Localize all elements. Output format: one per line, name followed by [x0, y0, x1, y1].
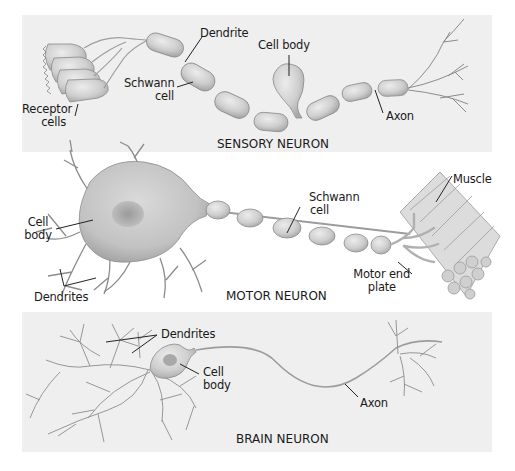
label-receptor-line2: cells	[12, 116, 66, 129]
sensory-axon-branches	[408, 19, 468, 112]
receptor-cells	[43, 44, 108, 102]
title-sensory-neuron: SENSORY NEURON	[217, 137, 329, 151]
label-muscle: Muscle	[453, 173, 492, 186]
title-motor-neuron: MOTOR NEURON	[226, 289, 327, 303]
label-dendrite: Dendrite	[200, 27, 248, 40]
label-brain-axon: Axon	[360, 397, 388, 410]
motor-neuron	[36, 140, 500, 299]
label-sensory-axon: Axon	[386, 110, 414, 123]
brain-neuron	[26, 320, 442, 442]
motor-nucleus	[112, 201, 144, 227]
label-motor-cell-line2: body	[22, 229, 54, 242]
label-brain-dendrites: Dendrites	[161, 328, 215, 341]
muscle-fibers	[400, 172, 500, 299]
label-brain-cell-line2: body	[203, 379, 231, 392]
brain-axon-terminals	[388, 320, 436, 396]
label-sensory-schwann-line2: cell	[124, 90, 174, 103]
brain-axon	[196, 341, 442, 387]
neuron-illustrations	[0, 0, 515, 471]
label-motor-dendrites: Dendrites	[34, 291, 88, 304]
motor-cell-body	[79, 161, 210, 262]
label-motor-schwann-line2: cell	[310, 204, 329, 217]
title-brain-neuron: BRAIN NEURON	[236, 432, 329, 446]
label-sensory-cell-body: Cell body	[258, 39, 310, 52]
label-motor-end-line2: plate	[334, 281, 396, 294]
